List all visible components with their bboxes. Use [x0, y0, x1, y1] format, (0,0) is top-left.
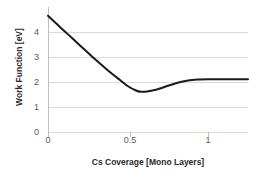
axis-lines [48, 7, 208, 137]
gridlines [48, 32, 248, 132]
data-series-line [48, 16, 248, 92]
work-function-chart: Work Function [eV] 4 3 2 1 0 0 0.5 1 Cs … [0, 0, 257, 179]
plot-area [0, 0, 257, 179]
